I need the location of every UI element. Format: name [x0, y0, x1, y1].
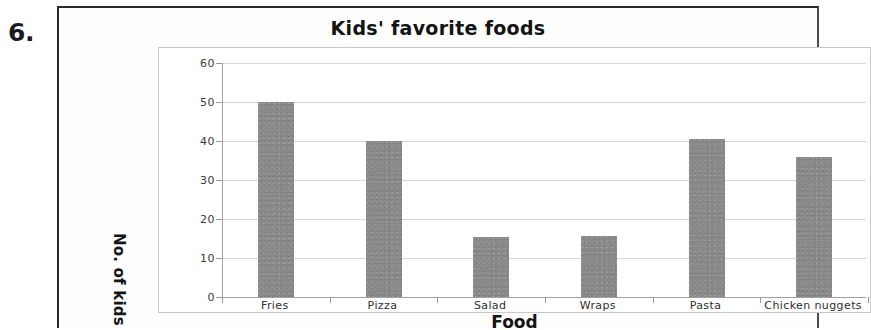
y-axis-title: No. of kids [110, 233, 128, 326]
x-category-label: Chicken nuggets [759, 299, 867, 312]
bar [366, 141, 402, 297]
x-category-label: Wraps [544, 299, 652, 312]
plot-area: 0102030405060 [158, 47, 871, 313]
x-category-label: Pizza [329, 299, 437, 312]
bar [581, 236, 617, 297]
y-tick-label: 20 [159, 213, 215, 226]
x-category-label: Fries [221, 299, 329, 312]
y-tick-label: 10 [159, 252, 215, 265]
bars-layer [222, 48, 866, 312]
bar [258, 102, 294, 297]
bar [689, 139, 725, 297]
bar [796, 157, 832, 297]
chart-title: Kids' favorite foods [59, 17, 817, 39]
x-category-label: Salad [436, 299, 544, 312]
chart-figure-frame: Kids' favorite foods No. of kids 0102030… [57, 6, 819, 328]
y-axis-title-container: No. of kids [131, 128, 151, 248]
y-tick-label: 50 [159, 96, 215, 109]
x-category-label: Pasta [652, 299, 760, 312]
y-tick-label: 40 [159, 135, 215, 148]
y-tick-label: 30 [159, 174, 215, 187]
question-number: 6. [8, 18, 34, 47]
x-axis-title: Food [158, 312, 871, 330]
y-tick-label: 60 [159, 57, 215, 70]
bar [473, 237, 509, 297]
